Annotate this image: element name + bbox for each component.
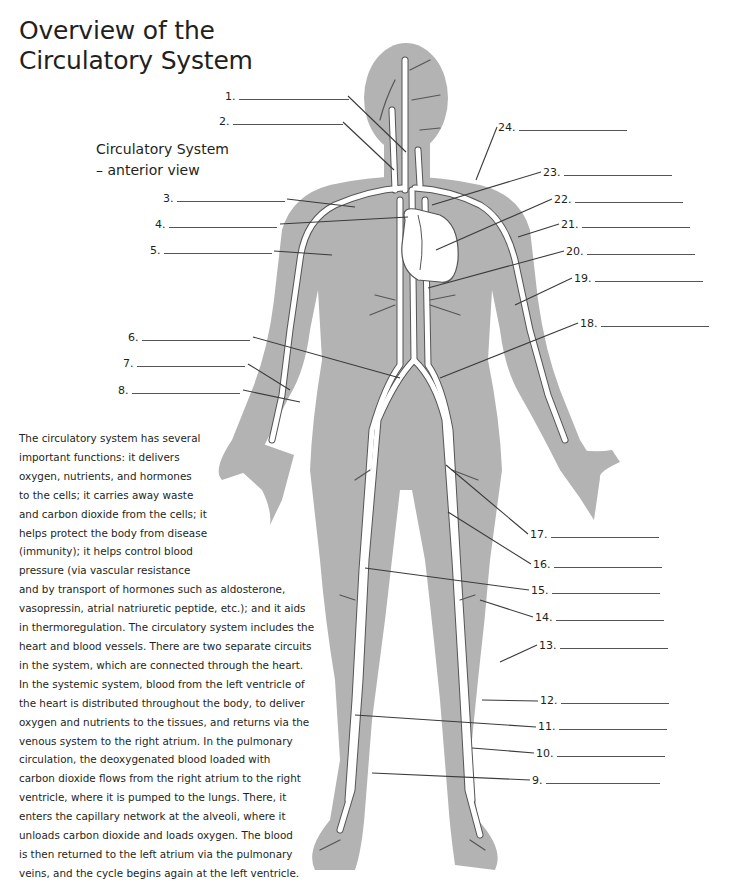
description-line: pressure (via vascular resistance bbox=[19, 561, 319, 580]
label-blank-23[interactable]: 23. bbox=[543, 166, 672, 179]
label-blank-20[interactable]: 20. bbox=[566, 245, 695, 258]
label-number: 20. bbox=[566, 245, 584, 258]
label-number: 4. bbox=[155, 218, 166, 231]
description-line: in thermoregulation. The circulatory sys… bbox=[19, 618, 319, 637]
answer-blank-line[interactable] bbox=[239, 90, 349, 100]
label-blank-19[interactable]: 19. bbox=[574, 272, 703, 285]
label-blank-21[interactable]: 21. bbox=[561, 218, 690, 231]
answer-blank-line[interactable] bbox=[552, 584, 660, 594]
description-line: helps protect the body from disease bbox=[19, 524, 319, 543]
label-number: 3. bbox=[163, 192, 174, 205]
label-blank-18[interactable]: 18. bbox=[580, 317, 709, 330]
description-line: (immunity); it helps control blood bbox=[19, 542, 319, 561]
answer-blank-line[interactable] bbox=[519, 121, 627, 131]
description-line: veins, and the cycle begins again at the… bbox=[19, 864, 319, 883]
label-number: 6. bbox=[128, 331, 139, 344]
description-line: circulation, the deoxygenated blood load… bbox=[19, 750, 319, 769]
description-line: The circulatory system has several bbox=[19, 429, 319, 448]
label-blank-14[interactable]: 14. bbox=[535, 611, 664, 624]
label-number: 10. bbox=[536, 747, 554, 760]
label-number: 19. bbox=[574, 272, 592, 285]
label-number: 1. bbox=[225, 90, 236, 103]
label-number: 23. bbox=[543, 166, 561, 179]
answer-blank-line[interactable] bbox=[557, 747, 665, 757]
answer-blank-line[interactable] bbox=[233, 115, 343, 125]
answer-blank-line[interactable] bbox=[556, 611, 664, 621]
label-number: 13. bbox=[539, 639, 557, 652]
description-line: vasopressin, atrial natriuretic peptide,… bbox=[19, 599, 319, 618]
description-line: and carbon dioxide from the cells; it bbox=[19, 505, 319, 524]
label-number: 24. bbox=[498, 121, 516, 134]
label-blank-9[interactable]: 9. bbox=[532, 774, 660, 787]
label-number: 12. bbox=[540, 694, 558, 707]
label-number: 5. bbox=[150, 244, 161, 257]
label-blank-11[interactable]: 11. bbox=[538, 720, 667, 733]
answer-blank-line[interactable] bbox=[132, 384, 240, 394]
answer-blank-line[interactable] bbox=[564, 166, 672, 176]
description-line: in the system, which are connected throu… bbox=[19, 656, 319, 675]
answer-blank-line[interactable] bbox=[142, 331, 250, 341]
answer-blank-line[interactable] bbox=[169, 218, 277, 228]
label-blank-10[interactable]: 10. bbox=[536, 747, 665, 760]
description-line: is then returned to the left atrium via … bbox=[19, 845, 319, 864]
label-number: 17. bbox=[530, 528, 548, 541]
label-number: 11. bbox=[538, 720, 556, 733]
description-line: unloads carbon dioxide and loads oxygen.… bbox=[19, 826, 319, 845]
answer-blank-line[interactable] bbox=[177, 192, 285, 202]
answer-blank-line[interactable] bbox=[575, 193, 683, 203]
label-blank-22[interactable]: 22. bbox=[554, 193, 683, 206]
label-blank-4[interactable]: 4. bbox=[155, 218, 277, 231]
answer-blank-line[interactable] bbox=[582, 218, 690, 228]
answer-blank-line[interactable] bbox=[551, 528, 659, 538]
label-blank-12[interactable]: 12. bbox=[540, 694, 669, 707]
description-line: enters the capillary network at the alve… bbox=[19, 807, 319, 826]
label-number: 9. bbox=[532, 774, 543, 787]
description-line: oxygen, nutrients, and hormones bbox=[19, 467, 319, 486]
label-blank-1[interactable]: 1. bbox=[225, 90, 349, 103]
description-line: important functions: it delivers bbox=[19, 448, 319, 467]
answer-blank-line[interactable] bbox=[546, 774, 660, 784]
label-blank-24[interactable]: 24. bbox=[498, 121, 627, 134]
label-blank-8[interactable]: 8. bbox=[118, 384, 240, 397]
description-line: In the systemic system, blood from the l… bbox=[19, 675, 319, 694]
label-number: 22. bbox=[554, 193, 572, 206]
answer-blank-line[interactable] bbox=[554, 558, 662, 568]
description-line: heart and blood vessels. There are two s… bbox=[19, 637, 319, 656]
description-line: to the cells; it carries away waste bbox=[19, 486, 319, 505]
description-line: carbon dioxide flows from the right atri… bbox=[19, 769, 319, 788]
label-number: 2. bbox=[219, 115, 230, 128]
label-number: 18. bbox=[580, 317, 598, 330]
label-number: 8. bbox=[118, 384, 129, 397]
description-line: ventricle, where it is pumped to the lun… bbox=[19, 788, 319, 807]
answer-blank-line[interactable] bbox=[137, 357, 245, 367]
description-paragraph: The circulatory system has severalimport… bbox=[19, 429, 319, 883]
answer-blank-line[interactable] bbox=[561, 694, 669, 704]
label-blank-5[interactable]: 5. bbox=[150, 244, 272, 257]
label-number: 14. bbox=[535, 611, 553, 624]
description-line: the heart is distributed throughout the … bbox=[19, 694, 319, 713]
answer-blank-line[interactable] bbox=[164, 244, 272, 254]
answer-blank-line[interactable] bbox=[560, 639, 668, 649]
label-number: 7. bbox=[123, 357, 134, 370]
label-number: 15. bbox=[531, 584, 549, 597]
description-line: venous system to the right atrium. In th… bbox=[19, 732, 319, 751]
label-blank-2[interactable]: 2. bbox=[219, 115, 343, 128]
label-blank-6[interactable]: 6. bbox=[128, 331, 250, 344]
label-blank-17[interactable]: 17. bbox=[530, 528, 659, 541]
label-number: 16. bbox=[533, 558, 551, 571]
answer-blank-line[interactable] bbox=[595, 272, 703, 282]
label-blank-15[interactable]: 15. bbox=[531, 584, 660, 597]
answer-blank-line[interactable] bbox=[587, 245, 695, 255]
label-blank-3[interactable]: 3. bbox=[163, 192, 285, 205]
description-line: and by transport of hormones such as ald… bbox=[19, 580, 319, 599]
label-blank-13[interactable]: 13. bbox=[539, 639, 668, 652]
answer-blank-line[interactable] bbox=[559, 720, 667, 730]
label-blank-16[interactable]: 16. bbox=[533, 558, 662, 571]
label-number: 21. bbox=[561, 218, 579, 231]
label-blank-7[interactable]: 7. bbox=[123, 357, 245, 370]
description-line: oxygen and nutrients to the tissues, and… bbox=[19, 713, 319, 732]
answer-blank-line[interactable] bbox=[601, 317, 709, 327]
